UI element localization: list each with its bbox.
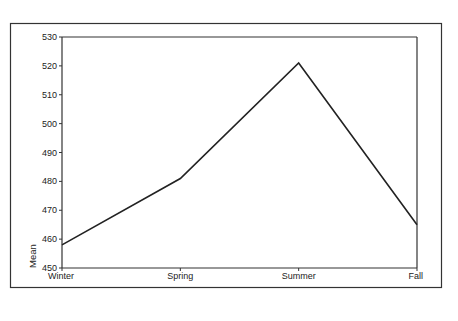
- y-tick-label: 520: [42, 61, 57, 71]
- y-tick-label: 500: [42, 119, 57, 129]
- x-tick-label: Winter: [48, 271, 74, 281]
- x-tick-label: Summer: [282, 271, 316, 281]
- x-tick-label: Fall: [408, 271, 423, 281]
- x-tick-label: Spring: [167, 271, 193, 281]
- plot-area: 450460470480490500510520530WinterSpringS…: [27, 32, 423, 281]
- y-tick-label: 460: [42, 234, 57, 244]
- chart-frame: [11, 24, 442, 288]
- series-line-mean: [62, 63, 417, 245]
- line-chart: 450460470480490500510520530WinterSpringS…: [0, 0, 458, 321]
- y-axis-title: Mean: [27, 244, 38, 268]
- y-tick-label: 510: [42, 90, 57, 100]
- y-tick-label: 470: [42, 205, 57, 215]
- y-tick-label: 490: [42, 148, 57, 158]
- y-tick-label: 480: [42, 176, 57, 186]
- y-tick-label: 530: [42, 32, 57, 42]
